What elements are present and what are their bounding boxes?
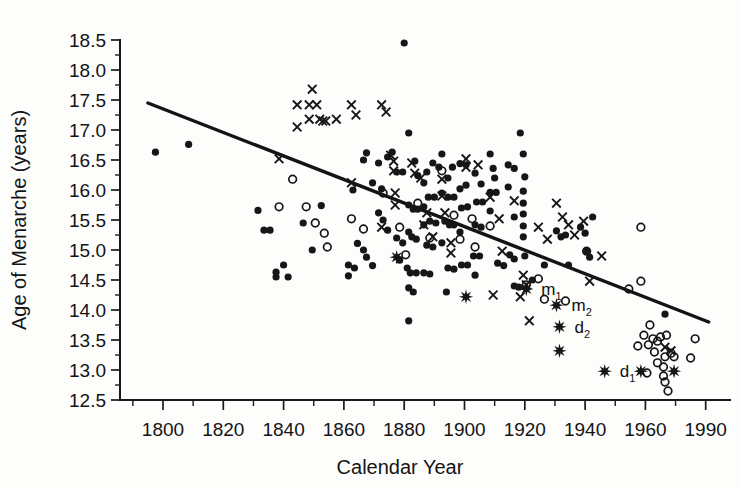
data-point-filled-circle [511,255,518,262]
data-point-filled-circle [450,221,457,228]
data-point-open-circle [634,342,642,350]
data-point-filled-circle [464,203,471,210]
data-point-cross [525,317,534,326]
data-point-filled-circle [450,194,457,201]
data-point-filled-circle [464,261,471,268]
x-tick-label: 1940 [564,419,606,440]
data-point-filled-circle [429,243,436,250]
data-point-cross [441,209,450,218]
point-label-d1: d1 [620,362,636,384]
y-tick-label: 14.0 [69,300,106,321]
data-point-filled-circle [369,179,376,186]
data-point-cross [305,101,314,110]
x-axis-title: Calendar Year [337,456,464,478]
data-point-open-circle [468,215,476,223]
data-point-filled-circle [511,213,518,220]
data-point-open-circle [324,243,332,251]
y-tick-label: 17.5 [69,90,106,111]
y-axis-title: Age of Menarche (years) [8,110,30,330]
data-point-cross [552,199,561,208]
data-point-filled-circle [450,266,457,273]
data-point-cross [498,247,507,256]
data-point-cross [308,85,317,94]
data-point-filled-circle [487,150,494,157]
data-point-cross [312,101,321,110]
data-point-filled-circle [375,209,382,216]
data-point-star [552,344,566,358]
data-point-cross [585,277,594,286]
data-point-filled-circle [300,219,307,226]
data-point-filled-circle [185,141,192,148]
data-point-filled-circle [520,210,527,217]
data-point-cross [579,217,588,226]
data-point-filled-circle [399,168,406,175]
data-point-filled-circle [443,288,450,295]
data-point-star [389,250,403,264]
data-point-open-circle [687,354,695,362]
data-point-cross [377,223,386,232]
x-tick-label: 1960 [624,419,666,440]
data-point-cross [516,293,525,302]
data-point-open-circle [275,203,283,211]
x-tick-label: 1880 [383,419,425,440]
data-point-filled-circle [500,262,507,269]
data-point-open-circle [645,341,653,349]
data-point-cross [391,189,400,198]
data-point-cross [382,108,391,117]
data-point-filled-circle [405,317,412,324]
data-point-filled-circle [379,216,386,223]
data-point-filled-circle [477,224,484,231]
data-point-filled-circle [375,159,382,166]
data-point-cross [489,291,498,300]
data-point-open-circle [637,223,645,231]
data-point-filled-circle [438,150,445,157]
data-point-cross [474,161,483,170]
data-point-filled-circle [363,254,370,261]
data-point-filled-circle [152,149,159,156]
data-point-open-circle [360,225,368,233]
data-point-filled-circle [413,236,420,243]
data-points [152,39,699,394]
data-point-filled-circle [491,174,498,181]
data-point-filled-circle [462,182,469,189]
x-tick-label: 1860 [323,419,365,440]
data-point-cross [558,213,567,222]
data-point-filled-circle [476,252,483,259]
x-tick-label: 1820 [202,419,244,440]
data-point-filled-circle [487,207,494,214]
data-point-filled-circle [490,165,497,172]
x-tick-label: 1840 [262,419,304,440]
x-tick-label: 1920 [504,419,546,440]
data-point-filled-circle [318,202,325,209]
y-tick-label: 15.5 [69,210,106,231]
chart-figure: 12.513.013.514.014.515.015.516.016.517.0… [0,0,740,489]
data-point-filled-circle [589,213,596,220]
data-point-cross [377,101,386,110]
data-point-filled-circle [363,149,370,156]
data-point-cross [332,115,341,124]
data-point-filled-circle [420,269,427,276]
data-point-open-circle [456,235,464,243]
data-point-cross [352,111,361,120]
data-point-cross [570,231,579,240]
data-point-filled-circle [410,288,417,295]
data-point-filled-circle [345,272,352,279]
x-tick-label: 1900 [443,419,485,440]
data-point-cross [347,101,356,110]
data-point-filled-circle [477,180,484,187]
y-tick-label: 14.5 [69,270,106,291]
y-tick-label: 17.0 [69,120,106,141]
data-point-filled-circle [479,198,486,205]
data-point-cross [564,221,573,230]
data-point-cross [305,115,314,124]
data-point-cross [543,235,552,244]
data-point-filled-circle [515,284,522,291]
point-label-d2: d2 [575,318,591,340]
data-point-filled-circle [553,227,560,234]
data-point-filled-circle [521,173,528,180]
data-point-open-circle [691,335,699,343]
data-point-open-circle [651,348,659,356]
data-point-open-circle [396,223,404,231]
x-tick-label: 1800 [142,419,184,440]
data-point-filled-circle [505,183,512,190]
